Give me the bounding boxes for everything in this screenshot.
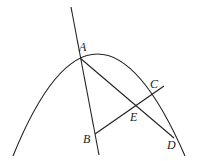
label-b: B <box>83 132 91 146</box>
label-a: A <box>78 40 87 54</box>
geometry-diagram: A B C E D <box>0 0 197 161</box>
line-a-d <box>80 58 174 138</box>
label-c: C <box>150 77 159 91</box>
parabola-curve <box>13 54 185 156</box>
label-e: E <box>129 110 138 124</box>
label-d: D <box>166 138 176 152</box>
